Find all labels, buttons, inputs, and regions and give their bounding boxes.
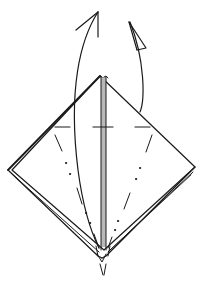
fold-behind-arrow-right [129, 22, 146, 112]
bottom-point-marks [96, 246, 110, 275]
origami-diagram [0, 0, 204, 281]
diagram-canvas [0, 0, 204, 281]
arrowhead-barb [76, 12, 98, 30]
